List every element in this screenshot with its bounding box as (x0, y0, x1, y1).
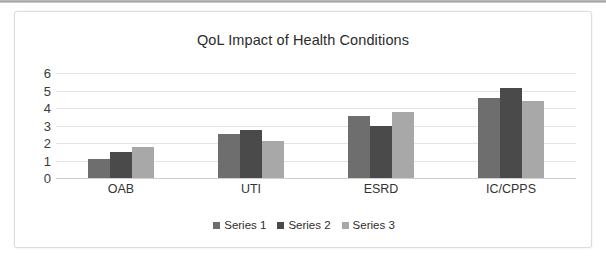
legend-label: Series 3 (353, 220, 395, 232)
gridline (56, 178, 576, 179)
bar (218, 134, 240, 178)
legend-label: Series 2 (288, 220, 330, 232)
y-axis-tick-label: 4 (44, 102, 51, 115)
x-axis-category-label: OAB (108, 182, 134, 196)
x-axis-category-labels: OABUTIESRDIC/CPPS (56, 182, 576, 200)
y-axis-tick-label: 5 (44, 84, 51, 97)
plot-area (56, 73, 576, 178)
bars-layer (56, 73, 576, 178)
bar-group (478, 73, 544, 178)
chart-container: QoL Impact of Health Conditions 0123456 … (14, 11, 592, 248)
chart-title: QoL Impact of Health Conditions (15, 32, 591, 48)
bar-group (218, 73, 284, 178)
bar-group (88, 73, 154, 178)
legend-item[interactable]: Series 3 (342, 220, 395, 232)
bar (478, 98, 500, 178)
y-axis-tick-label: 6 (44, 67, 51, 80)
y-axis-tick-label: 0 (44, 172, 51, 185)
y-axis-tick-label: 2 (44, 137, 51, 150)
legend-swatch-icon (277, 222, 284, 229)
bar-group (348, 73, 414, 178)
y-axis-tick-label: 1 (44, 154, 51, 167)
x-axis-category-label: IC/CPPS (486, 182, 536, 196)
bar (110, 152, 132, 178)
bar (500, 88, 522, 178)
chart-legend: Series 1Series 2Series 3 (15, 220, 593, 232)
legend-swatch-icon (342, 222, 349, 229)
legend-item[interactable]: Series 1 (213, 220, 266, 232)
legend-swatch-icon (213, 222, 220, 229)
legend-item[interactable]: Series 2 (277, 220, 330, 232)
bar (392, 112, 414, 178)
y-axis-tick-label: 3 (44, 119, 51, 132)
page-edge-artifact (0, 0, 606, 3)
bar (262, 141, 284, 178)
bar (348, 116, 370, 178)
bar (132, 147, 154, 179)
legend-label: Series 1 (224, 220, 266, 232)
x-axis-category-label: UTI (241, 182, 261, 196)
bar (240, 130, 262, 178)
x-axis-category-label: ESRD (364, 182, 399, 196)
bar (88, 159, 110, 178)
bar (370, 126, 392, 178)
y-axis-tick-labels: 0123456 (29, 73, 51, 178)
bar (522, 101, 544, 178)
